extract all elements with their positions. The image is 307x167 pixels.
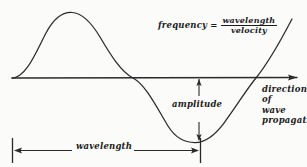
formula-denominator: velocity <box>229 26 269 35</box>
direction-label-line-1: direction <box>262 85 307 94</box>
direction-label-line-4: propagation <box>262 116 307 125</box>
amplitude-measure <box>196 79 201 141</box>
direction-of-wave-propagation-label: direction of wave propagation <box>262 85 307 127</box>
wavelength-label: wavelength <box>76 142 132 151</box>
formula-fraction: wavelength velocity <box>221 16 278 34</box>
formula-numerator: wavelength <box>221 16 278 25</box>
wave-diagram: frequency = wavelength velocity amplitud… <box>0 0 307 167</box>
direction-label-line-3: wave <box>262 106 307 115</box>
direction-label-line-2: of <box>262 95 307 104</box>
formula-lhs: frequency <box>158 21 207 30</box>
amplitude-label: amplitude <box>172 100 222 109</box>
frequency-formula: frequency = wavelength velocity <box>158 16 277 34</box>
axis-line <box>12 78 297 79</box>
formula-equals: = <box>209 21 218 30</box>
